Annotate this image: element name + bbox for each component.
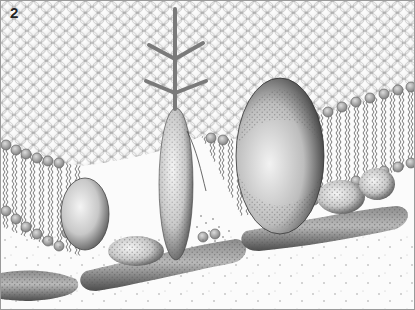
figure-frame: 2: [0, 0, 415, 310]
cytoplasm: [1, 231, 414, 309]
small-integral-protein: [61, 178, 109, 250]
large-integral-protein: [236, 78, 324, 234]
membrane-illustration: [1, 1, 414, 309]
panel-label: 2: [10, 4, 18, 21]
